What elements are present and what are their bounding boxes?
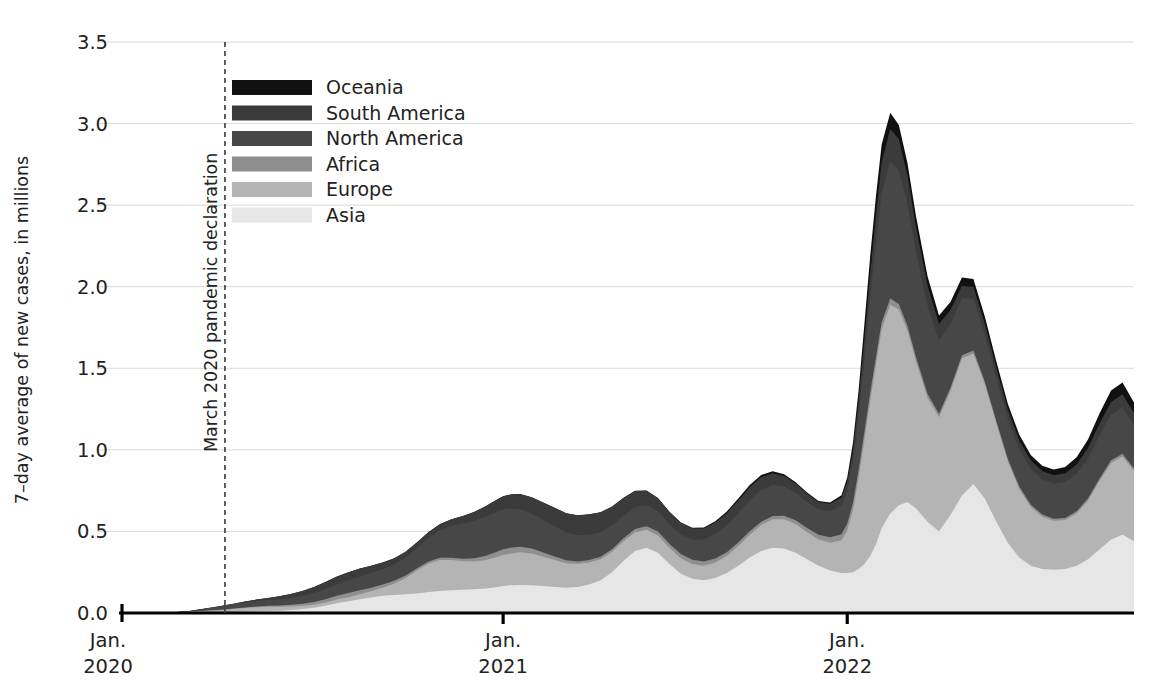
legend-swatch-europe: [232, 182, 312, 197]
legend-label-south-america: South America: [326, 102, 466, 124]
x-tick-label: Jan.: [827, 629, 865, 652]
y-tick-label: 0.0: [77, 602, 108, 625]
y-axis-ticks: 0.00.51.01.52.02.53.03.5: [77, 31, 108, 625]
legend-label-africa: Africa: [326, 153, 380, 175]
x-tick-label: Jan.: [483, 629, 521, 652]
annotation-label-pandemic-declaration: March 2020 pandemic declaration: [201, 153, 221, 452]
legend-swatch-north-america: [232, 131, 312, 146]
y-tick-label: 3.0: [77, 113, 108, 136]
annotation-group: March 2020 pandemic declaration: [201, 42, 225, 613]
y-tick-label: 2.0: [77, 276, 108, 299]
y-tick-label: 0.5: [77, 520, 108, 543]
chart-legend: OceaniaSouth AmericaNorth AmericaAfricaE…: [232, 76, 466, 226]
x-tick-label: 2022: [822, 655, 872, 678]
y-tick-label: 3.5: [77, 31, 108, 54]
legend-label-europe: Europe: [326, 178, 393, 200]
chart-container: Jan.2020Jan.2021Jan.2022 0.00.51.01.52.0…: [0, 0, 1166, 694]
legend-swatch-asia: [232, 208, 312, 223]
y-axis-title: 7–day average of new cases, in millions: [12, 156, 32, 504]
legend-label-asia: Asia: [326, 204, 366, 226]
x-tick-label: 2021: [478, 655, 528, 678]
y-tick-label: 2.5: [77, 194, 108, 217]
stacked-area-chart: Jan.2020Jan.2021Jan.2022 0.00.51.01.52.0…: [0, 0, 1166, 694]
y-tick-label: 1.5: [77, 357, 108, 380]
legend-label-north-america: North America: [326, 127, 464, 149]
legend-swatch-oceania: [232, 80, 312, 95]
legend-swatch-south-america: [232, 106, 312, 121]
x-tick-label: 2020: [83, 655, 133, 678]
legend-swatch-africa: [232, 157, 312, 172]
x-axis-ticks: Jan.2020Jan.2021Jan.2022: [83, 613, 872, 678]
y-tick-label: 1.0: [77, 439, 108, 462]
legend-label-oceania: Oceania: [326, 76, 404, 98]
y-axis-title-group: 7–day average of new cases, in millions: [12, 156, 32, 504]
x-tick-label: Jan.: [88, 629, 126, 652]
